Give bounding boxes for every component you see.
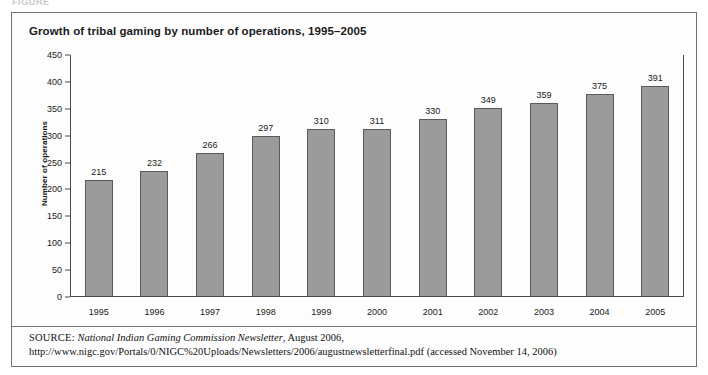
- y-axis-ticks: 050100150200250300350400450: [26, 55, 70, 323]
- bar-value-label: 359: [536, 90, 551, 100]
- x-tick-label: 1997: [182, 299, 238, 323]
- x-tick-label: 1995: [71, 299, 127, 323]
- bar[interactable]: [196, 153, 224, 296]
- y-tick-label: 450: [26, 50, 62, 60]
- bar-column[interactable]: 297: [238, 55, 294, 296]
- y-tick-label: 50: [26, 265, 62, 275]
- y-tick-label: 200: [26, 184, 62, 194]
- bar[interactable]: [363, 129, 391, 296]
- figure-page: FIGURE Growth of tribal gaming by number…: [0, 0, 708, 375]
- x-tick-label: 1999: [294, 299, 350, 323]
- y-tick-label: 100: [26, 238, 62, 248]
- source-kicker: SOURCE:: [29, 332, 75, 343]
- bar-value-label: 232: [147, 158, 162, 168]
- y-tick-label: 150: [26, 211, 62, 221]
- x-tick-label: 2000: [349, 299, 405, 323]
- bar-value-label: 349: [481, 95, 496, 105]
- bar[interactable]: [474, 108, 502, 296]
- bar-column[interactable]: 232: [127, 55, 183, 296]
- bar[interactable]: [85, 180, 113, 296]
- x-tick-label: 2003: [516, 299, 572, 323]
- x-tick-label: 2004: [572, 299, 628, 323]
- bar[interactable]: [641, 86, 669, 296]
- bar[interactable]: [586, 94, 614, 296]
- x-tick-label: 2002: [460, 299, 516, 323]
- bar-column[interactable]: 375: [572, 55, 628, 296]
- plot-right-border: [683, 55, 684, 297]
- source-note: SOURCE: National Indian Gaming Commissio…: [29, 331, 682, 359]
- bar-column[interactable]: 391: [627, 55, 683, 296]
- bar-column[interactable]: 215: [71, 55, 127, 296]
- bar-value-label: 215: [91, 167, 106, 177]
- source-publication: National Indian Gaming Commission Newsle…: [77, 332, 282, 343]
- figure-number-caption: FIGURE: [12, 0, 50, 5]
- bar-value-label: 310: [314, 116, 329, 126]
- x-tick-label: 2001: [405, 299, 461, 323]
- bar-value-label: 297: [258, 123, 273, 133]
- x-tick-label: 2005: [627, 299, 683, 323]
- y-tick-label: 400: [26, 77, 62, 87]
- bar[interactable]: [419, 119, 447, 296]
- bar-column[interactable]: 266: [182, 55, 238, 296]
- bar-column[interactable]: 310: [294, 55, 350, 296]
- bar[interactable]: [252, 136, 280, 296]
- y-tick-label: 350: [26, 104, 62, 114]
- x-tick-label: 1996: [127, 299, 183, 323]
- bar[interactable]: [530, 103, 558, 296]
- bar[interactable]: [140, 171, 168, 296]
- y-tick-label: 250: [26, 158, 62, 168]
- bar-value-label: 391: [648, 73, 663, 83]
- chart-title: Growth of tribal gaming by number of ope…: [29, 25, 366, 37]
- bar-column[interactable]: 311: [349, 55, 405, 296]
- bar-column[interactable]: 359: [516, 55, 572, 296]
- bar-value-label: 330: [425, 106, 440, 116]
- x-tick-label: 1998: [238, 299, 294, 323]
- chart-plot-area: Number of operations 0501001502002503003…: [26, 55, 684, 323]
- x-axis-line: [70, 296, 684, 297]
- bar-series: 215232266297310311330349359375391: [71, 55, 683, 296]
- x-axis-ticks: 1995199619971998199920002001200220032004…: [71, 299, 683, 323]
- y-tick-label: 300: [26, 131, 62, 141]
- bar-column[interactable]: 349: [460, 55, 516, 296]
- figure-box: Growth of tribal gaming by number of ope…: [11, 12, 697, 367]
- bar-value-label: 311: [370, 116, 384, 126]
- y-tick-label: 0: [26, 292, 62, 302]
- chart-axes: 215232266297310311330349359375391: [70, 55, 684, 297]
- bar-column[interactable]: 330: [405, 55, 461, 296]
- bar[interactable]: [307, 129, 335, 296]
- source-divider: [12, 326, 696, 327]
- bar-value-label: 375: [592, 81, 607, 91]
- bar-value-label: 266: [203, 140, 218, 150]
